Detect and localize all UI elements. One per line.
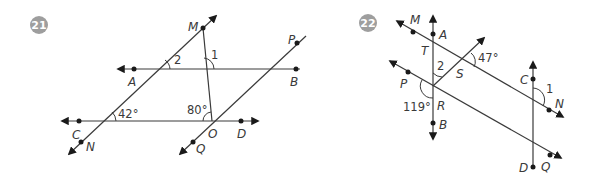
label-b: B: [439, 118, 447, 132]
point-q: [548, 153, 553, 158]
point-b: [294, 67, 299, 72]
angle-1-label: 1: [546, 82, 553, 96]
angle-2-label: 2: [437, 59, 444, 73]
label-n: N: [555, 97, 564, 111]
point-a: [431, 32, 436, 37]
label-d: D: [237, 127, 246, 141]
angle-47-label: 47°: [478, 51, 498, 65]
point-n: [547, 108, 552, 113]
angle-80-label: 80°: [187, 103, 207, 117]
point-p: [406, 70, 411, 75]
point-p: [295, 41, 300, 46]
label-o: O: [208, 127, 217, 141]
problem-22: 22 M A T S P R B C N D: [359, 13, 564, 174]
point-a: [132, 67, 137, 72]
label-p: P: [288, 33, 296, 47]
angle-1-label: 1: [211, 48, 218, 62]
angle-42-arc: [112, 112, 116, 121]
problem-number-badge: 21: [30, 16, 48, 34]
point-c: [531, 77, 536, 82]
angle-119-label: 119°: [403, 100, 431, 114]
label-m: M: [410, 13, 421, 27]
point-d: [239, 119, 244, 124]
angle-2-label: 2: [174, 53, 181, 67]
angle-2-arc: [433, 73, 442, 77]
label-d: D: [519, 161, 528, 174]
angle-119-arc: [420, 80, 433, 98]
point-q: [191, 140, 196, 145]
problem-number: 22: [360, 17, 375, 30]
label-c: C: [72, 128, 81, 142]
problem-21: 21 M A B C D O N P Q 2: [30, 16, 306, 156]
label-m: M: [188, 20, 199, 34]
problem-number-badge: 22: [359, 14, 377, 32]
line-mn: [69, 16, 216, 154]
label-b: B: [290, 75, 298, 89]
label-s: S: [456, 67, 464, 81]
label-n: N: [86, 140, 95, 154]
label-q: Q: [196, 142, 205, 156]
label-a: A: [438, 28, 447, 42]
label-c: C: [520, 73, 529, 87]
angle-42-label: 42°: [118, 107, 138, 121]
point-m: [201, 26, 206, 31]
label-r: R: [437, 99, 445, 113]
label-q: Q: [541, 160, 550, 174]
problem-number: 21: [31, 19, 46, 32]
label-t: T: [421, 44, 430, 58]
point-m: [411, 30, 416, 35]
geometry-figures: 21 M A B C D O N P Q 2: [0, 0, 592, 174]
point-b: [431, 121, 436, 126]
label-p: P: [400, 77, 408, 91]
point-c: [77, 119, 82, 124]
point-d: [531, 165, 536, 170]
label-a: A: [127, 75, 136, 89]
